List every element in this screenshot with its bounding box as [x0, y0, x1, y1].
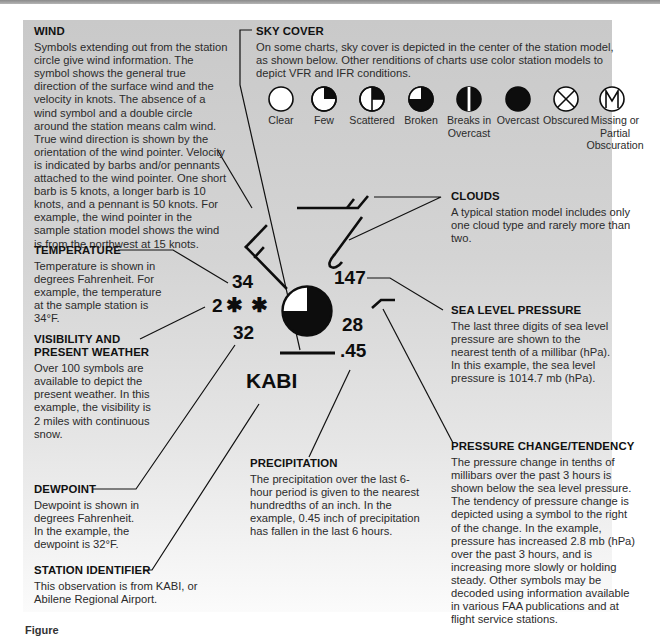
sky-label-clear: Clear: [263, 114, 299, 127]
station-identifier-value: KABI: [246, 369, 297, 393]
station-identifier-description: This observation is from KABI, or Abilen…: [34, 580, 234, 606]
sky-cover-section: SKY COVER On some charts, sky cover is d…: [256, 25, 616, 80]
sky-breaks-in-overcast-icon: [457, 87, 481, 111]
snow-weather-icon: ✱ ✱: [226, 296, 269, 315]
sky-cover-description: On some charts, sky cover is depicted in…: [256, 41, 616, 80]
visibility-section: VISIBILITY AND PRESENT WEATHER Over 100 …: [34, 333, 159, 441]
precipitation-description: The precipitation over the last 6-hour p…: [250, 473, 425, 538]
visibility-value: 2: [212, 296, 223, 315]
sky-cover-symbols: [269, 87, 624, 111]
temperature-description: Temperature is shown in degrees Fahrenhe…: [34, 260, 169, 325]
sky-label-scattered: Scattered: [346, 114, 398, 127]
sky-overcast-icon: [506, 87, 530, 111]
dewpoint-description: Dewpoint is shown in degrees Fahrenheit.…: [34, 499, 144, 551]
visibility-description: Over 100 symbols are available to depict…: [34, 362, 159, 441]
pressure-change-description: The pressure change in tenths of milliba…: [451, 456, 639, 626]
visibility-heading: VISIBILITY AND PRESENT WEATHER: [34, 333, 159, 359]
sky-label-missing: Missing or Partial Obscuration: [585, 114, 645, 152]
sea-level-pressure-value: 147: [334, 268, 366, 287]
temperature-section: TEMPERATURE Temperature is shown in degr…: [34, 244, 169, 326]
clouds-heading: CLOUDS: [451, 190, 631, 203]
pressure-change-heading: PRESSURE CHANGE/TENDENCY: [451, 440, 639, 453]
station-circle-icon: [283, 287, 332, 336]
cloud-symbols-icon: [297, 196, 368, 268]
sky-label-broken: Broken: [398, 114, 444, 127]
sky-missing-partial-obscuration-icon: [600, 87, 624, 111]
sea-level-pressure-description: The last three digits of sea level press…: [451, 320, 611, 385]
precipitation-value: .45: [340, 341, 366, 360]
station-identifier-section: STATION IDENTIFIER This observation is f…: [34, 564, 234, 606]
wind-section: WIND Symbols extending out from the stat…: [34, 25, 229, 251]
sky-label-few: Few: [306, 114, 342, 127]
wind-description: Symbols extending out from the station c…: [34, 41, 229, 251]
sea-level-pressure-section: SEA LEVEL PRESSURE The last three digits…: [451, 304, 611, 386]
station-identifier-heading: STATION IDENTIFIER: [34, 564, 234, 577]
wind-heading: WIND: [34, 25, 229, 38]
sea-level-pressure-heading: SEA LEVEL PRESSURE: [451, 304, 611, 317]
sky-clear-icon: [269, 87, 293, 111]
sky-scattered-icon: [360, 87, 384, 111]
figure-caption: Figure: [25, 624, 59, 636]
temperature-heading: TEMPERATURE: [34, 244, 169, 257]
precipitation-heading: PRECIPITATION: [250, 457, 425, 470]
clouds-section: CLOUDS A typical station model includes …: [451, 190, 631, 245]
dewpoint-section: DEWPOINT Dewpoint is shown in degrees Fa…: [34, 483, 144, 551]
pressure-change-section: PRESSURE CHANGE/TENDENCY The pressure ch…: [451, 440, 639, 626]
pressure-tendency-icon: [372, 300, 395, 308]
sky-few-icon: [312, 87, 336, 111]
sky-obscured-icon: [554, 87, 578, 111]
dewpoint-heading: DEWPOINT: [34, 483, 144, 496]
sky-broken-icon: [409, 87, 433, 111]
precipitation-section: PRECIPITATION The precipitation over the…: [250, 457, 425, 539]
sky-label-breaks-in-overcast: Breaks in Overcast: [446, 114, 492, 139]
sky-label-overcast: Overcast: [494, 114, 542, 127]
dewpoint-value: 32: [233, 323, 254, 342]
sky-cover-heading: SKY COVER: [256, 25, 616, 38]
pressure-change-value: 28: [342, 315, 363, 334]
clouds-description: A typical station model includes only on…: [451, 206, 631, 245]
temperature-value: 34: [232, 272, 253, 291]
